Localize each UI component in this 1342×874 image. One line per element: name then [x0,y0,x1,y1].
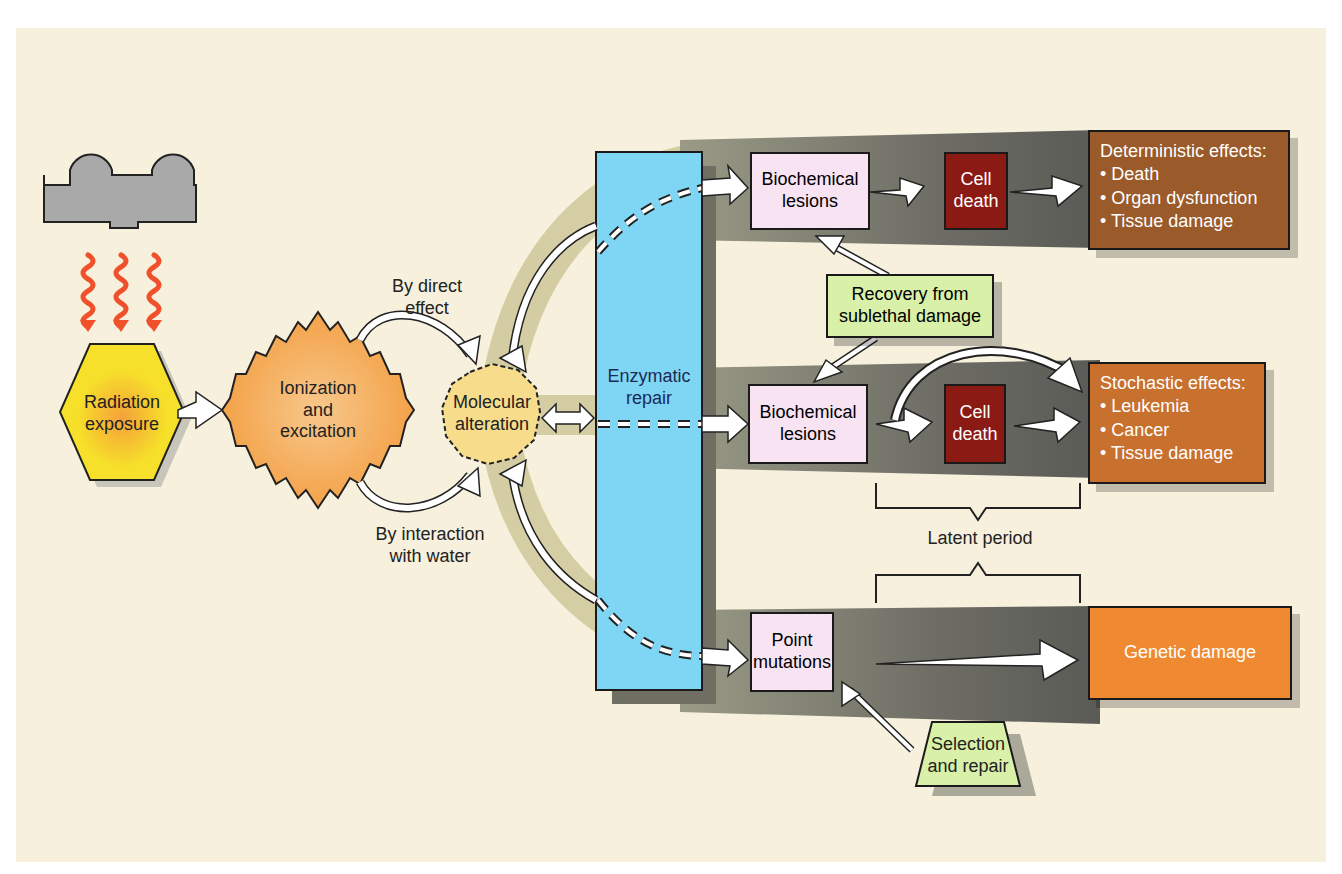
enzymatic-repair-label: Enzymatic repair [596,366,702,409]
deterministic-item: • Death [1100,163,1278,186]
selection-and-repair-label: Selection and repair [916,734,1020,777]
deterministic-effects-box[interactable]: Deterministic effects: • Death • Organ d… [1088,130,1290,250]
molecular-alteration-label: Molecular alteration [440,392,544,435]
ionization-label: Ionization and excitation [250,378,386,443]
stochastic-effects-box[interactable]: Stochastic effects: • Leukemia • Cancer … [1088,362,1266,484]
biochemical-lesions-2[interactable]: Biochemicallesions [748,384,868,464]
direct-effect-label: By direct effect [372,276,482,319]
latent-period-label: Latent period [900,528,1060,550]
deterministic-item: • Organ dysfunction [1100,187,1278,210]
genetic-damage-box[interactable]: Genetic damage [1088,606,1292,700]
stochastic-item: • Leukemia [1100,395,1254,418]
radiation-exposure-label: Radiation exposure [66,392,178,435]
stochastic-item: • Cancer [1100,419,1254,442]
stochastic-item: • Tissue damage [1100,442,1254,465]
cell-death-1[interactable]: Celldeath [944,152,1008,230]
point-mutations-node[interactable]: Pointmutations [750,612,834,692]
cell-death-2[interactable]: Celldeath [944,384,1006,464]
interaction-water-label: By interaction with water [360,524,500,567]
radiation-wave-icons [83,255,159,327]
radiation-source-icon [44,155,196,228]
biochemical-lesions-1[interactable]: Biochemicallesions [750,152,870,230]
recovery-node[interactable]: Recovery fromsublethal damage [826,274,994,338]
deterministic-item: • Tissue damage [1100,210,1278,233]
